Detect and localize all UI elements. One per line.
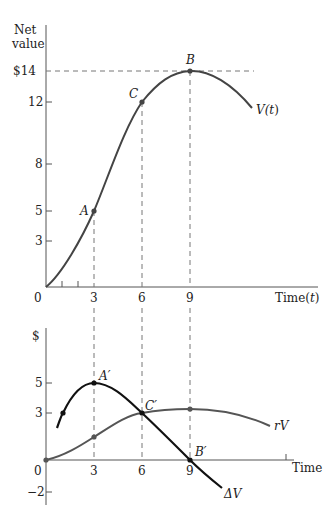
point-c bbox=[139, 99, 144, 104]
bottom-ytick-minus2: −2 bbox=[27, 485, 45, 499]
top-ylabel-line1: Net bbox=[14, 23, 37, 37]
point-a bbox=[91, 208, 96, 213]
top-ytick-12: 12 bbox=[28, 95, 43, 109]
label-a-prime: A′ bbox=[98, 369, 111, 383]
top-xtick-3: 3 bbox=[90, 291, 98, 305]
top-ytick-5: 5 bbox=[35, 204, 43, 218]
bottom-xtick-6: 6 bbox=[138, 464, 146, 478]
rv-label: rV bbox=[274, 419, 290, 433]
bottom-chart: $ 5 3 0 −2 3 6 9 Time A′ C′ B′ rV ΔV bbox=[27, 328, 322, 505]
top-x-ticks bbox=[62, 281, 78, 287]
top-ytick-8: 8 bbox=[35, 157, 43, 171]
label-b-prime: B′ bbox=[194, 445, 207, 459]
top-ytick-14: $14 bbox=[13, 64, 36, 78]
rv-point-3 bbox=[91, 434, 96, 439]
rv-point-9 bbox=[187, 406, 192, 411]
point-c-prime bbox=[139, 410, 144, 415]
dv-point-1 bbox=[60, 410, 65, 415]
bottom-ylabel: $ bbox=[32, 329, 40, 343]
bottom-xlabel: Time bbox=[292, 461, 322, 475]
top-xtick-9: 9 bbox=[186, 291, 194, 305]
rv-curve bbox=[46, 409, 270, 460]
rv-point-0 bbox=[43, 457, 48, 462]
label-c-prime: C′ bbox=[145, 399, 157, 413]
point-b-prime bbox=[187, 457, 192, 462]
point-b bbox=[187, 68, 192, 73]
label-c: C bbox=[129, 87, 138, 101]
v-of-t-label: V(t) bbox=[256, 103, 279, 117]
label-b: B bbox=[185, 53, 195, 67]
bottom-ytick-5: 5 bbox=[35, 376, 43, 390]
bottom-xtick-3: 3 bbox=[90, 464, 98, 478]
top-xlabel: Time(t) bbox=[275, 291, 320, 305]
top-ytick-3: 3 bbox=[35, 234, 43, 248]
delta-v-label: ΔV bbox=[223, 487, 243, 501]
bottom-ytick-0: 0 bbox=[34, 464, 42, 478]
top-xtick-0: 0 bbox=[34, 291, 42, 305]
bottom-xtick-9: 9 bbox=[186, 464, 194, 478]
connector-guides bbox=[94, 308, 190, 460]
bottom-ytick-3: 3 bbox=[35, 406, 43, 420]
top-xtick-6: 6 bbox=[138, 291, 146, 305]
top-guides bbox=[46, 71, 254, 287]
top-chart: Net value $14 12 8 5 3 0 3 6 9 Time(t) bbox=[11, 23, 320, 305]
label-a: A bbox=[79, 204, 89, 218]
point-a-prime bbox=[91, 380, 96, 385]
v-of-t-curve bbox=[46, 71, 252, 287]
net-value-diagram: Net value $14 12 8 5 3 0 3 6 9 Time(t) bbox=[0, 0, 333, 518]
top-y-ticks bbox=[46, 102, 52, 241]
top-ylabel-line2: value bbox=[11, 37, 45, 51]
